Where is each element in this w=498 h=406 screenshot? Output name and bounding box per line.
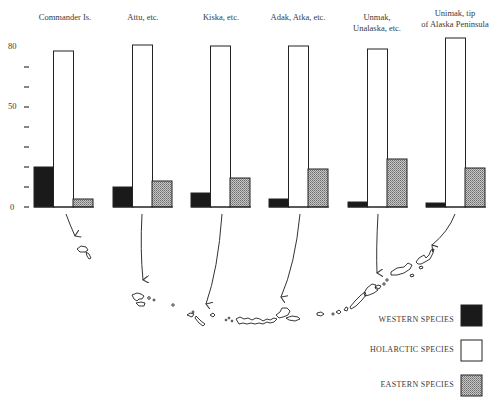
island-small-3	[172, 304, 174, 306]
alaska-peninsula	[416, 249, 434, 264]
island-kiska	[187, 313, 194, 317]
arrow-attu	[141, 214, 143, 280]
island-amchitka	[195, 316, 205, 326]
bar-eastern	[73, 199, 93, 207]
bar-eastern	[465, 168, 485, 207]
arrow-kiska	[206, 214, 222, 304]
group-label-unimak-line1: Unimak, tip	[435, 8, 476, 18]
island-small-11	[419, 266, 423, 269]
island-small-10	[386, 279, 388, 281]
island-commander-2	[86, 252, 91, 259]
bar-group	[348, 49, 408, 207]
bar-group	[426, 38, 486, 207]
island-atka	[276, 308, 290, 318]
legend-swatch-eastern	[461, 375, 482, 396]
island-agattu	[136, 302, 145, 306]
island-small-1	[148, 297, 151, 300]
group-label-kiska: Kiska, etc.	[203, 12, 239, 22]
island-umnak	[350, 292, 366, 309]
island-small-5	[225, 319, 227, 321]
bar-eastern	[152, 181, 172, 207]
group-label-adak: Adak, Atka, etc.	[271, 12, 326, 22]
legend: WESTERN SPECIES HOLARCTIC SPECIES EASTER…	[370, 305, 482, 396]
bar-group	[34, 51, 94, 207]
island-attu	[132, 293, 144, 301]
bar-western	[348, 202, 368, 207]
island-andreanof-chain	[236, 317, 277, 324]
arrow-unalaska	[377, 214, 378, 273]
island-four-mtn-1	[336, 310, 341, 314]
island-four-mtn-2	[344, 307, 348, 311]
arrow-commander	[66, 214, 75, 236]
bar-holarctic	[289, 46, 309, 207]
legend-swatch-western	[461, 305, 482, 326]
bar-western	[34, 167, 54, 207]
island-small-9	[383, 283, 385, 285]
bar-holarctic	[446, 38, 466, 207]
island-rat-2	[210, 313, 215, 317]
island-commander-1	[77, 246, 88, 252]
legend-label-eastern: EASTERN SPECIES	[380, 380, 454, 389]
bar-western	[191, 193, 211, 207]
aleutian-islands-map	[77, 246, 434, 326]
arrows	[66, 214, 455, 304]
island-small-4	[192, 311, 194, 313]
legend-label-holarctic: HOLARCTIC SPECIES	[370, 345, 454, 354]
group-labels: Commander Is. Attu, etc. Kiska, etc. Ada…	[39, 8, 489, 33]
island-unimak	[391, 263, 412, 275]
bar-eastern	[308, 169, 328, 207]
bar-holarctic	[54, 51, 74, 207]
aleutian-species-chart: Commander Is. Attu, etc. Kiska, etc. Ada…	[0, 0, 498, 406]
island-seguam	[317, 312, 324, 316]
island-amlia	[286, 316, 300, 321]
bar-western	[426, 203, 446, 207]
island-small-2	[153, 299, 155, 301]
bar-holarctic	[133, 45, 153, 207]
y-tick-label-0: 0	[10, 202, 14, 212]
bar-western	[269, 199, 289, 207]
y-tick-label-80: 80	[8, 41, 17, 51]
group-label-unimak-line2: of Alaska Peninsula	[421, 19, 489, 29]
bar-eastern	[387, 159, 407, 207]
island-sanak	[410, 274, 414, 277]
bar-western	[113, 187, 133, 207]
island-small-7	[231, 320, 233, 322]
bar-holarctic	[368, 49, 388, 207]
bar-group	[269, 46, 329, 207]
group-label-unalaska-line2: Unalaska, etc.	[353, 23, 401, 33]
bar-group	[191, 46, 251, 207]
group-label-unalaska-line1: Unmak,	[363, 12, 390, 22]
bar-groups	[34, 38, 486, 207]
y-axis: 80 50 0	[8, 41, 29, 212]
bar-group	[113, 45, 173, 207]
arrow-unimak	[432, 214, 455, 245]
arrow-adak	[281, 214, 300, 297]
island-small-8	[332, 313, 334, 315]
bar-holarctic	[211, 46, 231, 207]
group-label-commander: Commander Is.	[39, 12, 91, 22]
y-tick-label-50: 50	[8, 101, 17, 111]
group-label-attu: Attu, etc.	[127, 12, 158, 22]
bar-eastern	[230, 178, 250, 207]
island-small-6	[228, 317, 230, 319]
legend-swatch-holarctic	[461, 340, 482, 361]
legend-label-western: WESTERN SPECIES	[379, 315, 454, 324]
